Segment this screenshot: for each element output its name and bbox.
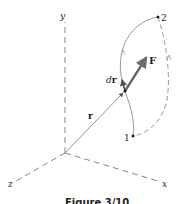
- coordinate-axes: [16, 22, 158, 181]
- point-1: [132, 135, 135, 138]
- x-axis: [65, 153, 158, 181]
- dashed-path-direction-arrow: [167, 55, 171, 60]
- position-vector-label: r: [88, 111, 93, 121]
- z-axis: [16, 153, 65, 181]
- path-direction-arrow: [121, 50, 125, 55]
- displacement-label-r: r: [112, 75, 117, 85]
- y-axis-label: y: [59, 11, 66, 21]
- force-label: F: [149, 55, 156, 66]
- point-2: [157, 16, 160, 19]
- figure-caption: Figure 3/10: [65, 197, 129, 204]
- force-vector-F: [125, 58, 146, 91]
- displacement-vector-dr: [122, 80, 125, 91]
- work-line-integral-diagram: y z x r F dr 1 2 Figure 3/10: [0, 0, 178, 204]
- x-axis-label: x: [162, 179, 167, 189]
- z-axis-label: z: [7, 179, 13, 189]
- position-vector-r: [65, 93, 123, 153]
- point-2-label: 2: [161, 13, 167, 23]
- path-curve-solid: [120, 17, 158, 136]
- point-1-label: 1: [124, 133, 130, 143]
- path-curve-dashed: [133, 17, 168, 136]
- point-on-path: [123, 89, 126, 92]
- displacement-label: dr: [106, 75, 117, 85]
